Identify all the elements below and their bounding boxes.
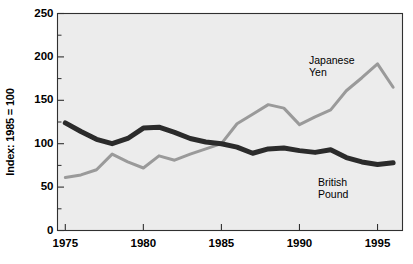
y-axis-title: Index: 1985 = 100 [0, 0, 20, 264]
x-tick-label: 1980 [120, 238, 166, 250]
chart-figure: Index: 1985 = 100 050100150200250 197519… [0, 0, 413, 264]
plot-background [58, 14, 403, 231]
x-tick-label: 1995 [355, 238, 401, 250]
x-tick-label: 1990 [276, 238, 322, 250]
y-tick-label: 0 [24, 225, 54, 237]
y-tick-label: 100 [24, 138, 54, 150]
y-tick-label: 200 [24, 51, 54, 63]
series-label-british-pound: British Pound [318, 176, 348, 201]
series-label-british-pound-line1: British [318, 176, 347, 188]
plot-area [0, 0, 413, 264]
series-label-japanese-yen-line1: Japanese [309, 54, 355, 66]
series-label-japanese-yen: Japanese Yen [309, 54, 355, 79]
series-label-british-pound-line2: Pound [318, 188, 348, 200]
x-tick-label: 1975 [42, 238, 88, 250]
y-tick-label: 150 [24, 95, 54, 107]
x-tick-label: 1985 [198, 238, 244, 250]
series-label-japanese-yen-line2: Yen [309, 66, 327, 78]
y-tick-label: 50 [24, 181, 54, 193]
y-tick-label: 250 [24, 8, 54, 20]
